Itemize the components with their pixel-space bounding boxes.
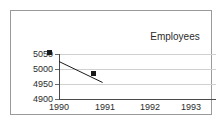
chart-frame: Employees 5050 5000 4950 4900 1990 1991 … — [10, 10, 212, 115]
series-line-employees — [11, 11, 224, 126]
data-point-1991 — [91, 71, 96, 76]
data-point-1990 — [47, 50, 52, 55]
chart-screenshot: Employees 5050 5000 4950 4900 1990 1991 … — [0, 0, 224, 126]
